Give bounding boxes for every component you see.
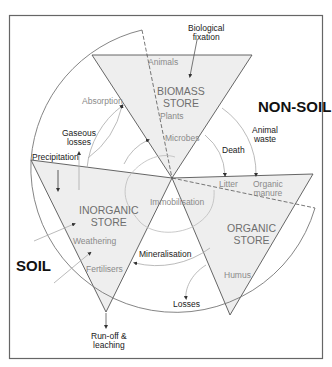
soil-label: SOIL <box>16 258 51 275</box>
microbes-label: Microbes <box>165 134 199 143</box>
losses-arrow <box>186 265 206 298</box>
losses-label: Losses <box>173 300 200 309</box>
humus-label: Humus <box>224 271 251 280</box>
fertilisers-label: Fertilisers <box>86 265 123 274</box>
plants-label: Plants <box>160 112 184 121</box>
biological-fixation-label: Biological fixation <box>188 24 224 43</box>
organic-manure-label: Organic manure <box>253 180 283 199</box>
absorption-label: Absorption <box>82 97 123 106</box>
weathering-label: Weathering <box>73 237 116 246</box>
immobilisation-label: Immobilisation <box>150 198 204 207</box>
organic-store-title: ORGANIC STORE <box>227 223 276 246</box>
runoff-leaching-label: Run-off & leaching <box>91 332 127 351</box>
non-soil-label: NON-SOIL <box>258 99 331 116</box>
animal-waste-label: Animal waste <box>252 126 278 145</box>
mineralisation-label: Mineralisation <box>139 250 191 259</box>
inorganic-store-title: INORGANIC STORE <box>79 205 139 228</box>
uptake-arrow <box>124 140 148 164</box>
animal-waste-arrow <box>222 108 256 175</box>
precipitation-label: Precipitation <box>32 153 79 162</box>
animals-label: Animals <box>148 58 178 67</box>
gaseous-losses-label: Gaseous losses <box>62 129 96 148</box>
death-label: Death <box>222 146 245 155</box>
biomass-store-title: BIOMASS STORE <box>157 86 205 109</box>
litter-label: Litter <box>219 180 238 189</box>
